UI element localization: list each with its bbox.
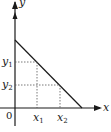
- coordinate-graph: [0, 0, 111, 132]
- y-axis-arrow-icon: [12, 1, 18, 9]
- y1-label: y1: [2, 56, 13, 69]
- graph-line: [15, 40, 82, 108]
- x2-label: x2: [57, 112, 68, 125]
- y-axis-arrow-secondary-icon: [13, 12, 18, 19]
- x-axis-label: x: [103, 102, 109, 113]
- x-axis-arrow-icon: [94, 105, 102, 111]
- y2-label: y2: [2, 79, 13, 92]
- y-axis-label: y: [19, 0, 25, 8]
- x1-label: x1: [33, 112, 44, 125]
- origin-label: 0: [6, 111, 12, 121]
